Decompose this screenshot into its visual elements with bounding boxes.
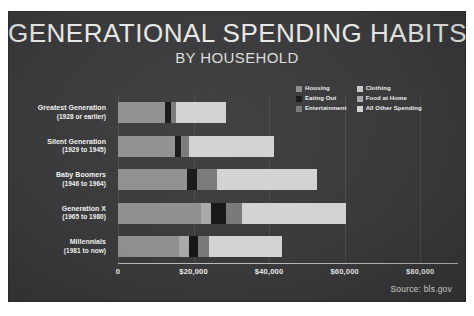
bar-segment[interactable] — [181, 136, 189, 157]
bar-segment[interactable] — [209, 236, 282, 257]
bar-segment[interactable] — [118, 236, 179, 257]
poster-image: GENERATIONAL SPENDING HABITS BY HOUSEHOL… — [0, 0, 474, 316]
bar-segment[interactable] — [189, 236, 198, 257]
bar-segment[interactable] — [175, 136, 182, 157]
bar-segment[interactable] — [179, 236, 189, 257]
x-tick-label: $40,000 — [255, 267, 284, 276]
bar-segment[interactable] — [189, 136, 274, 157]
page-title: GENERATIONAL SPENDING HABITS — [8, 18, 466, 49]
bar-segment[interactable] — [187, 169, 197, 190]
chart-plot-area: Greatest Generation(1928 or earlier)Sile… — [16, 95, 458, 270]
chart-board: GENERATIONAL SPENDING HABITS BY HOUSEHOL… — [8, 11, 466, 302]
bar-segment[interactable] — [118, 102, 165, 123]
category-label: Baby Boomers(1946 to 1964) — [14, 171, 106, 188]
source-credit: Source: bls.gov — [390, 284, 452, 294]
category-name: Millennials — [70, 238, 106, 245]
category-label: Millennials(1981 to now) — [14, 238, 106, 255]
legend-label: Housing — [305, 85, 330, 92]
legend-label: Clothing — [366, 85, 391, 92]
legend-swatch-icon — [296, 86, 302, 92]
bar-segment[interactable] — [211, 203, 225, 224]
category-label: Generation X(1965 to 1980) — [14, 205, 106, 222]
x-tick-label: $80,000 — [406, 267, 435, 276]
bar-segment[interactable] — [201, 203, 211, 224]
gridline — [345, 95, 346, 263]
legend-item[interactable]: Clothing — [357, 84, 422, 93]
category-years: (1928 or earlier) — [14, 113, 106, 122]
bar-segment[interactable] — [176, 102, 226, 123]
category-label: Greatest Generation(1928 or earlier) — [14, 104, 106, 121]
page-subtitle: BY HOUSEHOLD — [8, 49, 466, 66]
bar-segment[interactable] — [226, 203, 243, 224]
category-axis: Greatest Generation(1928 or earlier)Sile… — [16, 95, 110, 263]
category-years: (1981 to now) — [14, 247, 106, 256]
category-years: (1929 to 1945) — [14, 146, 106, 155]
category-label: Silent Generation(1929 to 1945) — [14, 138, 106, 155]
category-name: Silent Generation — [47, 138, 106, 145]
legend-swatch-icon — [357, 86, 363, 92]
bar-segment[interactable] — [118, 136, 175, 157]
x-tick-label: $60,000 — [330, 267, 359, 276]
category-years: (1946 to 1964) — [14, 180, 106, 189]
bar-segment[interactable] — [242, 203, 346, 224]
category-years: (1965 to 1980) — [14, 213, 106, 222]
bar-segment[interactable] — [118, 203, 201, 224]
gridline — [420, 95, 421, 263]
bar-segment[interactable] — [217, 169, 317, 190]
legend-item[interactable]: Housing — [296, 84, 347, 93]
bars-container: 0$20,000$40,000$60,000$80,000 — [118, 95, 458, 263]
x-axis-line — [118, 263, 458, 264]
bar-segment[interactable] — [197, 169, 217, 190]
category-name: Baby Boomers — [56, 171, 106, 178]
category-name: Greatest Generation — [38, 104, 106, 111]
bar-segment[interactable] — [118, 169, 187, 190]
bar-segment[interactable] — [198, 236, 209, 257]
category-name: Generation X — [62, 205, 106, 212]
x-tick-label: 0 — [116, 267, 120, 276]
x-tick-label: $20,000 — [179, 267, 208, 276]
